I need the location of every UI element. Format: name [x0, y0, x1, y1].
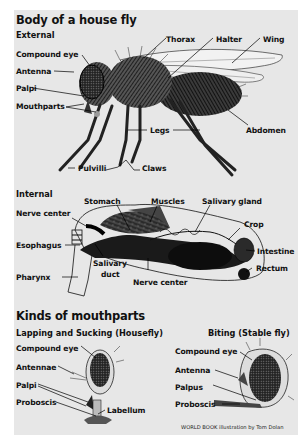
- lapping-label-antennae: Antennae: [16, 363, 56, 372]
- label-mouthparts: Mouthparts: [16, 102, 65, 111]
- biting-label-palpus: Palpus: [175, 383, 203, 392]
- fly-external-drawing: [60, 46, 282, 175]
- label-abdomen: Abdomen: [246, 126, 286, 135]
- label-nerve-center-top: Nerve center: [16, 209, 70, 218]
- label-intestine: Intestine: [257, 247, 294, 256]
- label-stomach: Stomach: [84, 197, 121, 206]
- label-wing: Wing: [263, 35, 284, 44]
- lapping-heading: Lapping and Sucking (Housefly): [16, 328, 163, 338]
- label-claws: Claws: [142, 164, 166, 173]
- label-legs: Legs: [150, 126, 170, 135]
- biting-heading-paren: (Stable fly): [238, 328, 289, 338]
- lapping-heading-bold: Lapping and Sucking: [16, 328, 112, 338]
- label-salivary-duct-1: Salivary: [93, 259, 127, 268]
- label-salivary-duct-2: duct: [101, 270, 120, 279]
- label-pharynx: Pharynx: [16, 273, 50, 282]
- lapping-label-labellum: Labellum: [107, 406, 145, 415]
- label-compound-eye: Compound eye: [16, 50, 78, 59]
- label-antenna: Antenna: [16, 67, 51, 76]
- mouthparts-heading: Kinds of mouthparts: [16, 309, 145, 323]
- lapping-label-palpi: Palpi: [16, 381, 37, 390]
- label-muscles: Muscles: [151, 197, 185, 206]
- biting-label-compound-eye: Compound eye: [175, 347, 237, 356]
- biting-heading-bold: Biting: [208, 328, 235, 338]
- lapping-label-proboscis: Proboscis: [16, 398, 56, 407]
- lapping-heading-paren: (Housefly): [115, 328, 163, 338]
- label-esophagus: Esophagus: [16, 241, 61, 250]
- label-rectum: Rectum: [256, 264, 288, 273]
- biting-label-proboscis: Proboscis: [175, 400, 215, 409]
- label-pulvilli: Pulvilli: [78, 164, 106, 173]
- label-halter: Halter: [216, 35, 242, 44]
- label-nerve-center-bottom: Nerve center: [133, 278, 187, 287]
- label-salivary-gland: Salivary gland: [202, 197, 262, 206]
- label-thorax: Thorax: [166, 35, 195, 44]
- biting-heading: Biting (Stable fly): [208, 328, 290, 338]
- internal-heading: Internal: [16, 189, 53, 199]
- illustration-credit: WORLD BOOK illustration by Tom Dolan: [181, 424, 284, 430]
- label-crop: Crop: [244, 220, 264, 229]
- lapping-label-compound-eye: Compound eye: [16, 344, 78, 353]
- label-palpi: Palpi: [16, 84, 37, 93]
- external-heading: External: [16, 30, 55, 40]
- page-title: Body of a house fly: [16, 13, 137, 27]
- biting-label-antenna: Antenna: [175, 366, 210, 375]
